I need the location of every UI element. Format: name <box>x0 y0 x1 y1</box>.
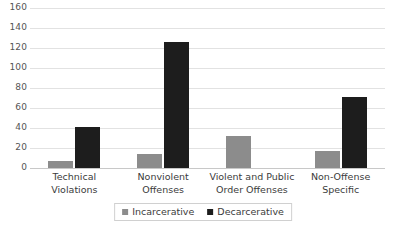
bar-incarcerative[interactable] <box>137 154 162 168</box>
incarcerative-swatch-icon <box>122 209 128 215</box>
x-tick-label-line: Violent and Public <box>208 171 297 184</box>
x-tick-label-line: Nonviolent <box>119 171 208 184</box>
decarcerative-swatch-icon <box>207 209 213 215</box>
bar-incarcerative[interactable] <box>226 136 251 168</box>
y-tick-label-20: 20 <box>0 143 27 152</box>
x-tick-label: NonviolentOffenses <box>119 171 208 196</box>
y-tick-label-140: 140 <box>0 23 27 32</box>
bar-decarcerative[interactable] <box>164 42 189 168</box>
bar-incarcerative[interactable] <box>48 161 73 168</box>
x-tick-label-line: Violations <box>30 184 119 197</box>
y-tick-label-120: 120 <box>0 43 27 52</box>
legend-label-incarcerative: Incarcerative <box>132 206 194 217</box>
x-axis-category-labels: TechnicalViolationsNonviolentOffensesVio… <box>30 171 385 201</box>
x-tick-label-line: Offenses <box>119 184 208 197</box>
plot-area <box>30 8 385 168</box>
bars-layer <box>30 8 385 168</box>
legend-entry-decarcerative[interactable]: Decarcerative <box>207 206 284 217</box>
y-tick-label-0: 0 <box>0 163 27 172</box>
bar-group <box>119 8 208 168</box>
y-tick-label-60: 60 <box>0 103 27 112</box>
bar-decarcerative[interactable] <box>75 127 100 168</box>
bar-incarcerative[interactable] <box>315 151 340 168</box>
bar-group <box>30 8 119 168</box>
bar-decarcerative[interactable] <box>342 97 367 168</box>
x-tick-label-line: Non-Offense <box>296 171 385 184</box>
legend-entry-incarcerative[interactable]: Incarcerative <box>122 206 194 217</box>
y-tick-label-40: 40 <box>0 123 27 132</box>
x-tick-label-line: Specific <box>296 184 385 197</box>
x-tick-label: TechnicalViolations <box>30 171 119 196</box>
bar-group <box>208 8 297 168</box>
y-tick-label-80: 80 <box>0 83 27 92</box>
y-tick-label-100: 100 <box>0 63 27 72</box>
x-tick-label-line: Technical <box>30 171 119 184</box>
bar-chart-figure: 020406080100120140160 TechnicalViolation… <box>0 0 406 235</box>
x-tick-label-line: Order Offenses <box>208 184 297 197</box>
x-tick-label: Violent and PublicOrder Offenses <box>208 171 297 196</box>
chart-legend: Incarcerative Decarcerative <box>114 203 292 221</box>
y-tick-label-160: 160 <box>0 3 27 12</box>
x-tick-label: Non-OffenseSpecific <box>296 171 385 196</box>
bar-group <box>296 8 385 168</box>
legend-label-decarcerative: Decarcerative <box>217 206 284 217</box>
